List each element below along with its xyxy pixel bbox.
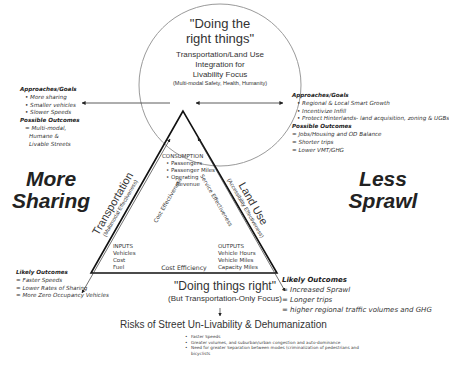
left-likely-outcomes-heading: Likely Outcomes [16, 269, 126, 277]
right-approach-text: Incentivize Infill [302, 108, 346, 114]
outputs-item: Capacity Miles [218, 264, 278, 271]
right-approach-item: • Protect Hinterlands- land acquisition,… [292, 115, 442, 123]
risks-list: Faster Speeds Greater volumes, and subur… [185, 334, 360, 356]
left-approaches-panel: Approaches/Goals • More sharing • Smalle… [20, 86, 110, 148]
left-approach-item: • Slower Speeds [20, 109, 110, 117]
left-likely-outcome-item: = More Zero Occupancy Vehicles [16, 292, 126, 300]
inputs-item: Cost [113, 257, 153, 264]
right-likely-outcomes: Likely Outcomes = Increased Sprawl = Lon… [282, 275, 442, 315]
circle-title-line1: "Doing the [160, 16, 280, 31]
right-likely-outcome-item: = Increased Sprawl [282, 285, 442, 295]
more-sharing-line1: More [6, 168, 96, 190]
left-outcome-item: Humane & [20, 133, 110, 141]
left-outcomes-heading: Possible Outcomes [20, 117, 110, 125]
left-outcome-item: = Multi-modal, [20, 125, 110, 133]
risks-title: Risks of Street Un-Livability & Dehumani… [120, 319, 360, 330]
circle-subtitle: Transportation/Land Use Integration for … [150, 50, 290, 80]
right-outcome-item: = Jobs/Housing and OD Balance [292, 131, 442, 139]
right-approaches-heading: Approaches/Goals [292, 92, 442, 100]
left-approach-text: More sharing [30, 94, 67, 100]
right-approach-text: Regional & Local Smart Growth [302, 100, 390, 106]
right-approach-item: • Regional & Local Smart Growth [292, 100, 442, 108]
outputs-block: OUTPUTS Vehicle Hours Vehicle Miles Capa… [218, 243, 278, 271]
cost-efficiency-label: Cost Efficiency [158, 264, 210, 271]
circle-subtitle-line2: Integration for [150, 60, 290, 70]
more-sharing-label: More Sharing [6, 168, 96, 212]
circle-subtitle-line3: Livability Focus [150, 70, 290, 80]
right-outcomes-heading: Possible Outcomes [292, 123, 442, 131]
left-likely-outcome-item: = Lower Rates of Sharing [16, 285, 126, 293]
risk-item: Need for greater Separation between mode… [185, 345, 360, 356]
less-sprawl-line2: Sprawl [338, 190, 428, 212]
outputs-item: Vehicle Hours [218, 250, 278, 257]
right-likely-outcomes-heading: Likely Outcomes [282, 275, 442, 285]
inputs-heading: INPUTS [113, 243, 153, 250]
circle-title-line2: right things" [160, 31, 280, 46]
left-outcome-item: Livable Streets [20, 141, 110, 149]
consumption-heading: CONSUMPTION [162, 153, 232, 160]
right-likely-outcome-item: = higher regional traffic volumes and GH… [282, 305, 442, 315]
right-approach-item: • Incentivize Infill [292, 108, 442, 116]
right-likely-outcome-item: = Longer trips [282, 295, 442, 305]
left-likely-outcomes: Likely Outcomes = Faster Speeds = Lower … [16, 269, 126, 300]
circle-title: "Doing the right things" [160, 16, 280, 46]
less-sprawl-label: Less Sprawl [338, 168, 428, 212]
right-approach-text: Protect Hinterlands- land acquisition, z… [302, 115, 449, 121]
left-approach-text: Smaller vehicles [30, 102, 76, 108]
inputs-block: INPUTS Vehicles Cost Fuel [113, 243, 153, 271]
right-outcome-item: = Shorter trips [292, 139, 442, 147]
left-approach-text: Slower Speeds [30, 109, 71, 115]
right-approaches-panel: Approaches/Goals • Regional & Local Smar… [292, 92, 442, 154]
right-outcome-item: = Lower VMT/GHG [292, 147, 442, 155]
inputs-item: Vehicles [113, 250, 153, 257]
circle-subtitle-line1: Transportation/Land Use [150, 50, 290, 60]
left-approach-item: • Smaller vehicles [20, 102, 110, 110]
more-sharing-line2: Sharing [6, 190, 96, 212]
left-approaches-heading: Approaches/Goals [20, 86, 110, 94]
left-approach-item: • More sharing [20, 94, 110, 102]
less-sprawl-line1: Less [338, 168, 428, 190]
circle-note: (Multi-modal Safety, Health, Humanity) [140, 80, 300, 87]
left-likely-outcome-item: = Faster Speeds [16, 277, 126, 285]
outputs-item: Vehicle Miles [218, 257, 278, 264]
